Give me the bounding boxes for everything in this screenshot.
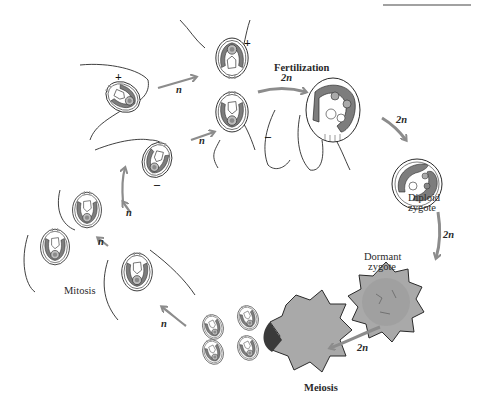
mitosis-cell-2 xyxy=(41,228,70,265)
meiosis-group xyxy=(199,290,352,372)
dormant-zygote xyxy=(348,262,424,342)
dormant-zygote-label-line2: zygote xyxy=(368,261,396,272)
plus-sign-fertilization: + xyxy=(244,37,251,49)
minus-gamete xyxy=(137,137,177,181)
ploidy-2n-1: 2n xyxy=(281,72,292,83)
ploidy-2n-2: 2n xyxy=(396,114,407,125)
diploid-zygote-label-line2: zygote xyxy=(408,202,436,213)
ploidy-n-4: n xyxy=(126,207,132,218)
ploidy-n-5: n xyxy=(98,236,104,247)
life-cycle-diagram: Fertilization Diploid zygote Dormant zyg… xyxy=(0,0,481,418)
plus-sign-gamete: + xyxy=(115,71,122,83)
ploidy-2n-4: 2n xyxy=(357,342,368,353)
arrow-fertilization-to-zygote xyxy=(258,89,306,92)
plus-gamete xyxy=(100,75,146,118)
arrow-to-dormant-zygote xyxy=(436,212,440,258)
fertilizing-minus-gamete xyxy=(216,91,248,132)
mitosis-label: Mitosis xyxy=(64,285,96,296)
ploidy-2n-3: 2n xyxy=(443,229,454,240)
minus-sign-fertilization: – xyxy=(265,130,271,142)
ploidy-n-1: n xyxy=(176,84,182,95)
ploidy-n-2: n xyxy=(199,135,205,146)
mitosis-cell-1 xyxy=(73,191,102,228)
minus-sign-gamete: – xyxy=(154,178,160,190)
quadriflagellate-zygote xyxy=(306,78,360,142)
ploidy-n-3: n xyxy=(161,318,167,329)
arrow-mitosis-to-minus xyxy=(122,168,125,202)
meiosis-label: Meiosis xyxy=(304,382,338,393)
haploid-cell xyxy=(122,252,153,291)
